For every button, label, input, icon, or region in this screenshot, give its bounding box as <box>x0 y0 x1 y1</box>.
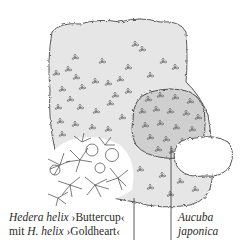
label-aucuba-japonica: Aucuba japonica <box>178 210 218 238</box>
white-shrub <box>174 137 232 177</box>
label-hedera-helix: Hedera helix ›Buttercup‹ mit H. helix ›G… <box>9 210 125 238</box>
label-hedera-line2: mit H. helix ›Goldheart‹ <box>9 224 125 238</box>
label-aucuba-line1: Aucuba <box>178 211 213 223</box>
label-hedera-line1: Hedera helix ›Buttercup‹ <box>9 210 125 224</box>
label-aucuba-line2: japonica <box>178 225 218 237</box>
planting-illustration <box>0 0 245 240</box>
